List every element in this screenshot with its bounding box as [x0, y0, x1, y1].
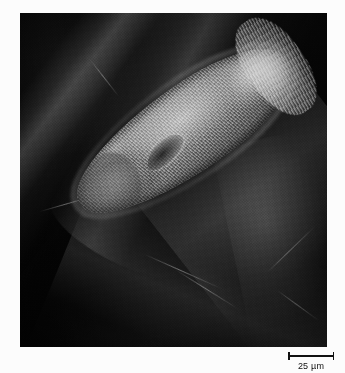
scale-bar-right-tick: [333, 352, 335, 360]
sem-micrograph-panel: [20, 13, 327, 347]
ciliate-organism: [20, 13, 327, 347]
scale-bar-rule: [288, 352, 334, 360]
scale-bar-label: 25 µm: [288, 361, 334, 371]
scale-bar-line: [288, 355, 334, 357]
figure-page: 25 µm: [0, 0, 345, 373]
scale-bar: 25 µm: [288, 352, 334, 371]
